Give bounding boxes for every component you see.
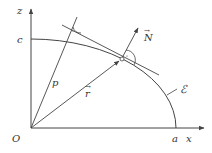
perpendicular-p (31, 17, 77, 128)
curve-label: ℰ (180, 83, 188, 96)
right-angle-dot-p (72, 30, 73, 31)
N-arrow-accent: → (144, 27, 150, 35)
p-label: p (52, 77, 59, 88)
ellipse-diagram: z c p r → N → ℰ O a x (0, 0, 212, 153)
diagram-svg: z c p r → N → ℰ O a x (0, 0, 212, 153)
a-label: a (172, 133, 178, 144)
right-angle-dot-N (126, 55, 127, 56)
r-arrow-accent: → (85, 83, 91, 91)
position-vector-r (31, 61, 119, 128)
right-angle-arc-N (126, 50, 135, 65)
c-label: c (17, 34, 23, 45)
z-axis-label: z (16, 5, 23, 16)
normal-vector-N (122, 28, 138, 58)
tangent-point (120, 57, 124, 61)
origin-label: O (12, 133, 20, 144)
x-axis-label: x (186, 133, 192, 144)
right-angle-arc-p (73, 27, 81, 33)
curve-label-leader (167, 89, 177, 95)
